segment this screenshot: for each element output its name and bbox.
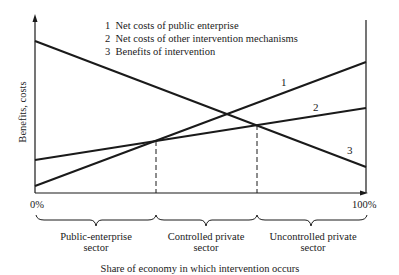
brace-public-enterprise: [36, 215, 156, 226]
region-3-label-line2: sector: [300, 242, 326, 253]
brace-controlled-private: [156, 215, 257, 226]
legend: 1 Net costs of public enterprise 2 Net c…: [105, 20, 298, 57]
brace-uncontrolled-private: [257, 215, 367, 226]
x-axis-label: Share of economy in which intervention o…: [101, 263, 300, 274]
y-axis-arrow-icon: [33, 14, 38, 22]
y-axis-label: Benefits, costs: [17, 81, 28, 142]
line-3-tag: 3: [347, 144, 353, 156]
line-1-tag: 1: [281, 76, 287, 88]
diagram: 1 2 3 1 Net costs of public enterprise 2…: [0, 0, 399, 275]
legend-item-1: 1 Net costs of public enterprise: [105, 20, 239, 31]
line-2-tag: 2: [313, 101, 319, 113]
region-2-label-line1: Controlled private: [168, 231, 245, 242]
region-2-label-line2: sector: [193, 242, 219, 253]
x-axis-arrow-icon: [360, 191, 368, 196]
series-lines: [35, 41, 366, 186]
legend-item-2: 2 Net costs of other intervention mechan…: [105, 33, 298, 44]
line-1-public-enterprise-cost: [35, 62, 366, 186]
region-3-label-line1: Uncontrolled private: [269, 231, 357, 242]
legend-item-3: 3 Benefits of intervention: [105, 46, 216, 57]
region-1-label-line2: sector: [83, 242, 109, 253]
line-2-other-mechanisms-cost: [35, 108, 366, 160]
region-1-label-line1: Public-enterprise: [60, 231, 132, 242]
x-tick-0: 0%: [30, 199, 44, 210]
region-labels: Public-enterprise sector Controlled priv…: [60, 231, 357, 253]
x-tick-100: 100%: [352, 199, 377, 210]
region-braces: [36, 215, 367, 226]
